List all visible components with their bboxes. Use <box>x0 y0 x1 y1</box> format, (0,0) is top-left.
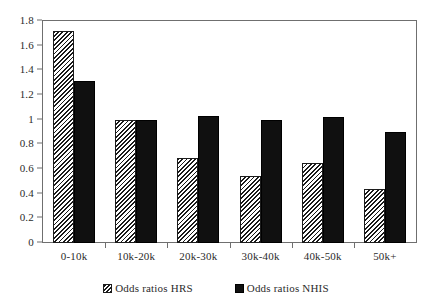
y-tick-label: 1 <box>28 113 34 124</box>
bar-chart: 00.20.40.60.811.21.41.61.8 0-10k10k-20k2… <box>0 0 432 302</box>
bar-group <box>364 21 406 243</box>
x-tick-mark <box>354 243 355 248</box>
bar-hrs <box>53 31 74 243</box>
y-axis: 00.20.40.60.811.21.41.61.8 <box>0 20 42 243</box>
bar-group <box>240 21 282 243</box>
bar-hrs <box>115 120 136 243</box>
legend-swatch-hatched-icon <box>103 284 112 293</box>
y-tick-label: 0 <box>28 237 34 248</box>
bar-group <box>177 21 219 243</box>
y-tick-label: 1.2 <box>20 89 34 100</box>
x-tick-label: 30k-40k <box>242 250 280 263</box>
y-tick-label: 1.4 <box>20 64 34 75</box>
legend-item-hrs: Odds ratios HRS <box>103 282 193 294</box>
y-tick-label: 1.8 <box>20 15 34 26</box>
bar-group <box>302 21 344 243</box>
x-tick-mark <box>292 243 293 248</box>
legend-label-nhis: Odds ratios NHIS <box>247 282 329 294</box>
y-tick-label: 1.6 <box>20 39 34 50</box>
bar-hrs <box>177 158 198 243</box>
x-tick-label: 0-10k <box>61 250 88 263</box>
bar-nhis <box>136 120 157 243</box>
y-tick-label: 0.8 <box>20 138 34 149</box>
x-tick-label: 40k-50k <box>304 250 342 263</box>
legend-swatch-solid-icon <box>235 284 244 293</box>
bar-hrs <box>364 189 385 243</box>
y-tick-label: 0.2 <box>20 212 34 223</box>
bar-group <box>115 21 157 243</box>
bar-nhis <box>74 81 95 243</box>
x-tick-label: 10k-20k <box>117 250 155 263</box>
chart-legend: Odds ratios HRS Odds ratios NHIS <box>0 279 432 297</box>
x-axis-labels: 0-10k10k-20k20k-30k30k-40k40k-50k50k+ <box>43 250 416 268</box>
bar-hrs <box>302 163 323 243</box>
legend-item-nhis: Odds ratios NHIS <box>235 282 329 294</box>
x-tick-mark <box>167 243 168 248</box>
bar-hrs <box>240 176 261 243</box>
legend-label-hrs: Odds ratios HRS <box>115 282 193 294</box>
bar-nhis <box>198 116 219 243</box>
bar-nhis <box>323 117 344 243</box>
x-tick-label: 50k+ <box>373 250 397 263</box>
y-tick-label: 0.4 <box>20 187 34 198</box>
bar-nhis <box>261 120 282 243</box>
plot-area <box>43 21 416 243</box>
x-tick-mark <box>230 243 231 248</box>
bar-nhis <box>385 132 406 243</box>
y-tick-label: 0.6 <box>20 163 34 174</box>
x-tick-mark <box>105 243 106 248</box>
x-tick-label: 20k-30k <box>179 250 217 263</box>
bar-group <box>53 21 95 243</box>
